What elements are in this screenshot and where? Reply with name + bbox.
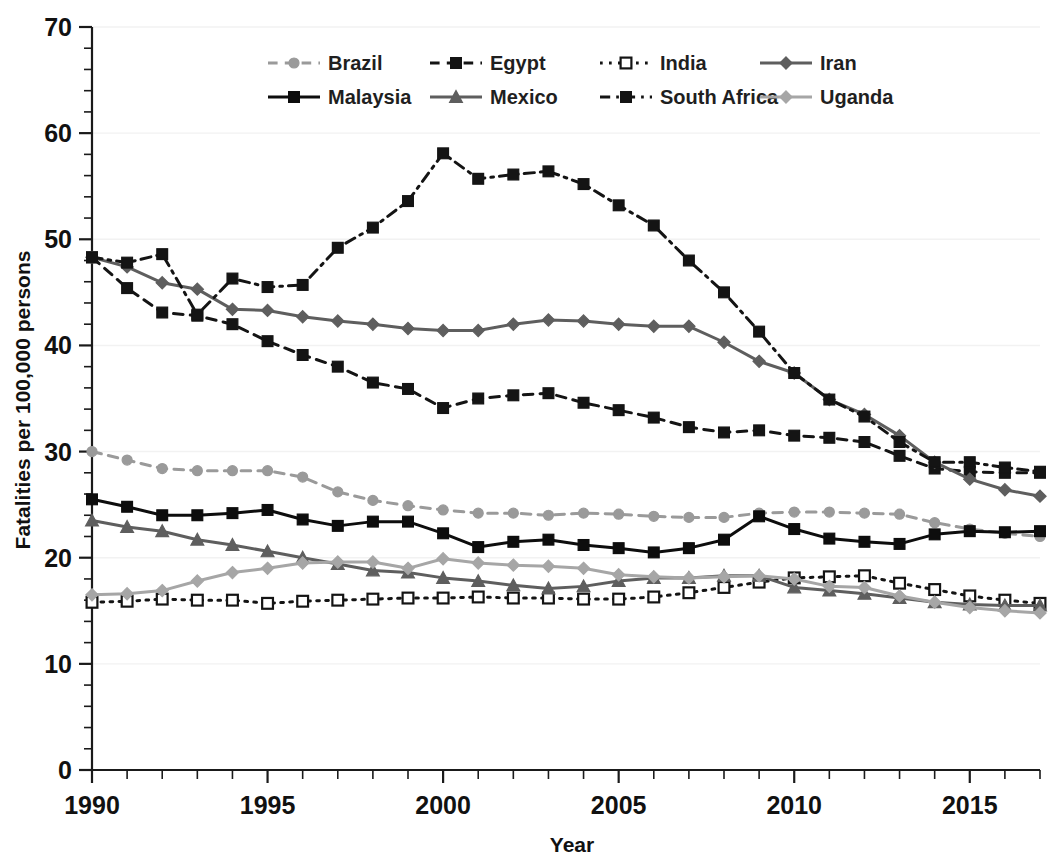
series-point [87, 494, 98, 505]
legend-item-iran[interactable]: Iran [760, 52, 857, 74]
legend-item-south-africa[interactable]: South Africa [600, 86, 779, 108]
series-point [367, 318, 379, 330]
series-point [508, 593, 519, 604]
series-point [649, 511, 659, 521]
legend-item-malaysia[interactable]: Malaysia [268, 86, 412, 108]
series-point [1035, 466, 1046, 477]
y-tick-label: 50 [44, 225, 72, 253]
chart-container: 010203040506070 199019952000200520102015… [0, 0, 1052, 867]
series-point [508, 508, 518, 518]
y-tick-labels: 010203040506070 [44, 13, 72, 784]
series-point [579, 508, 589, 518]
series-point [894, 539, 905, 550]
series-point [472, 557, 484, 569]
series-point [543, 534, 554, 545]
legend-item-india[interactable]: India [600, 52, 708, 74]
x-tick-label: 2000 [415, 791, 471, 819]
series-point [613, 405, 624, 416]
series-point [613, 543, 624, 554]
series-point [122, 283, 133, 294]
series-point [999, 527, 1010, 538]
series-point [648, 592, 659, 603]
series-point [261, 304, 273, 316]
x-tick-label: 1990 [64, 791, 120, 819]
series-point [367, 516, 378, 527]
series-point [332, 242, 343, 253]
legend-item-mexico[interactable]: Mexico [430, 86, 558, 108]
series-point [683, 320, 695, 332]
series-point [227, 508, 238, 519]
series-point [683, 422, 694, 433]
series-point [192, 510, 203, 521]
data-series-group [86, 148, 1047, 619]
series-point [789, 524, 800, 535]
series-point [859, 411, 870, 422]
series-point [122, 455, 132, 465]
series-point [262, 505, 273, 516]
y-axis-title: Fatalities per 100,000 persons [11, 251, 34, 550]
legend-item-egypt[interactable]: Egypt [430, 52, 546, 74]
series-point [472, 324, 484, 336]
series-point [297, 280, 308, 291]
series-point [226, 566, 238, 578]
legend-marker [289, 92, 300, 103]
series-point [192, 595, 203, 606]
y-tick-label: 10 [44, 650, 72, 678]
legend-label: Malaysia [328, 86, 412, 108]
series-point [403, 501, 413, 511]
legend-marker [289, 58, 299, 68]
series-point [930, 518, 940, 528]
series-point [543, 510, 553, 520]
legend-marker [780, 91, 792, 103]
series-point [122, 257, 133, 268]
series-point [437, 324, 449, 336]
series-point [332, 595, 343, 606]
series-point [192, 466, 202, 476]
series-point [999, 484, 1011, 496]
series-point [87, 447, 97, 457]
y-axis [79, 27, 92, 770]
series-point [648, 547, 659, 558]
series-point [859, 536, 870, 547]
x-tick-label: 2015 [942, 791, 998, 819]
legend: BrazilEgyptIndiaIranMalaysiaMexicoSouth … [268, 52, 894, 108]
series-point [157, 307, 168, 318]
series-point [191, 283, 203, 295]
x-tick-labels: 199019952000200520102015 [64, 791, 997, 819]
series-point [87, 252, 98, 263]
series-point [368, 495, 378, 505]
series-point [191, 575, 203, 587]
series-point [648, 412, 659, 423]
series-iran [86, 251, 1046, 502]
series-point [226, 303, 238, 315]
series-point [614, 509, 624, 519]
series-point [437, 553, 449, 565]
series-point [333, 487, 343, 497]
series-point [473, 393, 484, 404]
series-point [402, 322, 414, 334]
series-point [683, 255, 694, 266]
series-point [859, 508, 869, 518]
series-point [894, 437, 905, 448]
series-point [577, 562, 589, 574]
series-point [578, 594, 589, 605]
series-point [122, 501, 133, 512]
legend-label: India [660, 52, 708, 74]
series-point [543, 388, 554, 399]
series-point [438, 505, 448, 515]
series-point [683, 543, 694, 554]
series-point [613, 594, 624, 605]
legend-marker [621, 58, 632, 69]
series-point [508, 169, 519, 180]
legend-label: Egypt [490, 52, 546, 74]
series-point [999, 462, 1010, 473]
series-point [824, 394, 835, 405]
series-point [367, 377, 378, 388]
legend-item-uganda[interactable]: Uganda [760, 86, 894, 108]
legend-item-brazil[interactable]: Brazil [268, 52, 382, 74]
series-point [929, 457, 940, 468]
series-point [894, 450, 905, 461]
y-tick-label: 0 [58, 756, 72, 784]
series-point [719, 427, 730, 438]
series-point [367, 594, 378, 605]
